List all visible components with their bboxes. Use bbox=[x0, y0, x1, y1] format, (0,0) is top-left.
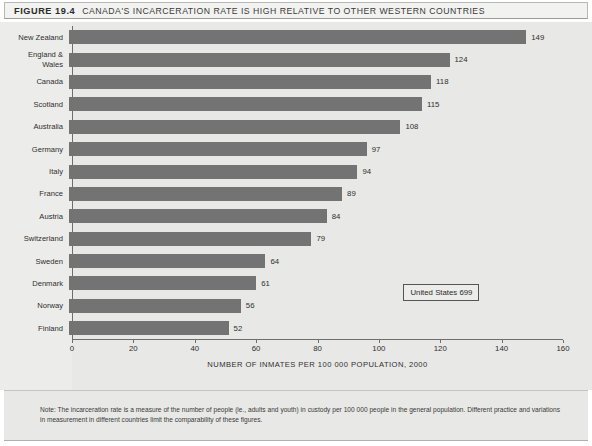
category-label: Australia bbox=[0, 122, 68, 131]
bar-wrapper: 56 bbox=[68, 295, 592, 317]
bar-row: Italy94 bbox=[0, 160, 592, 182]
x-axis-tick-label: 80 bbox=[313, 344, 322, 353]
bar-wrapper: 149 bbox=[68, 26, 592, 48]
x-axis-tick-label: 140 bbox=[495, 344, 508, 353]
bar-value-label: 64 bbox=[270, 257, 279, 266]
category-label: Austria bbox=[0, 212, 68, 221]
category-label: Canada bbox=[0, 77, 68, 86]
x-axis-tick bbox=[256, 340, 257, 343]
bar-wrapper: 79 bbox=[68, 228, 592, 250]
category-label: Italy bbox=[0, 167, 68, 176]
category-label: England & Wales bbox=[0, 50, 68, 68]
bar-value-label: 89 bbox=[347, 189, 356, 198]
united-states-callout: United States 699 bbox=[403, 284, 479, 301]
bar-value-label: 115 bbox=[427, 100, 439, 109]
bar-row: Germany97 bbox=[0, 138, 592, 160]
bottom-rule bbox=[4, 440, 588, 441]
x-axis-tick bbox=[379, 340, 380, 343]
figure-container: FIGURE 19.4 CANADA'S INCARCERATION RATE … bbox=[0, 0, 592, 446]
bar-wrapper: 97 bbox=[68, 138, 592, 160]
bar-value-label: 79 bbox=[316, 234, 325, 243]
figure-note: Note: The incarceration rate is a measur… bbox=[40, 405, 560, 424]
bar-value-label: 52 bbox=[234, 324, 243, 333]
chart-panel: New Zealand149England & Wales124Canada11… bbox=[0, 22, 592, 390]
figure-number: FIGURE 19.4 bbox=[14, 6, 75, 16]
bar-row: England & Wales124 bbox=[0, 48, 592, 70]
note-area: Note: The incarceration rate is a measur… bbox=[4, 391, 588, 440]
bar bbox=[69, 53, 450, 67]
x-axis-tick bbox=[72, 340, 73, 343]
bar-row: Norway56 bbox=[0, 295, 592, 317]
bar-value-label: 94 bbox=[362, 167, 371, 176]
bar-row: Switzerland79 bbox=[0, 228, 592, 250]
bar bbox=[69, 187, 342, 201]
bar-wrapper: 115 bbox=[68, 93, 592, 115]
bar bbox=[69, 75, 431, 89]
bar-row: Australia108 bbox=[0, 116, 592, 138]
category-label: Finland bbox=[0, 324, 68, 333]
bar-row: Scotland115 bbox=[0, 93, 592, 115]
bar-wrapper: 52 bbox=[68, 317, 592, 339]
bar-rows: New Zealand149England & Wales124Canada11… bbox=[0, 22, 592, 336]
x-axis-tick-label: 100 bbox=[372, 344, 385, 353]
bar-value-label: 84 bbox=[332, 212, 341, 221]
category-label: Germany bbox=[0, 145, 68, 154]
category-label: Norway bbox=[0, 301, 68, 310]
bar-value-label: 61 bbox=[261, 279, 270, 288]
x-axis-label: NUMBER OF INMATES PER 100 000 POPULATION… bbox=[72, 360, 563, 369]
bar bbox=[69, 232, 311, 246]
category-label: Switzerland bbox=[0, 234, 68, 243]
bar-value-label: 124 bbox=[455, 55, 468, 64]
category-label: Denmark bbox=[0, 279, 68, 288]
x-axis-tick bbox=[440, 340, 441, 343]
bar-row: France89 bbox=[0, 183, 592, 205]
bar-row: Denmark61 bbox=[0, 272, 592, 294]
bar bbox=[69, 97, 422, 111]
bar-wrapper: 118 bbox=[68, 71, 592, 93]
x-axis-tick-label: 60 bbox=[252, 344, 261, 353]
x-axis-tick-label: 120 bbox=[434, 344, 447, 353]
bar-value-label: 97 bbox=[372, 145, 381, 154]
bar-wrapper: 64 bbox=[68, 250, 592, 272]
bar bbox=[69, 30, 526, 44]
x-axis-tick bbox=[133, 340, 134, 343]
x-axis-tick-label: 40 bbox=[190, 344, 199, 353]
x-axis-tick bbox=[502, 340, 503, 343]
bar-row: Sweden64 bbox=[0, 250, 592, 272]
bar-wrapper: 94 bbox=[68, 160, 592, 182]
bar-value-label: 118 bbox=[436, 77, 448, 86]
category-label: France bbox=[0, 189, 68, 198]
bar-value-label: 108 bbox=[405, 122, 418, 131]
figure-title: CANADA'S INCARCERATION RATE IS HIGH RELA… bbox=[82, 6, 485, 16]
bar-row: New Zealand149 bbox=[0, 26, 592, 48]
x-axis: 020406080100120140160 bbox=[72, 340, 563, 354]
bar bbox=[69, 120, 400, 134]
bar-value-label: 149 bbox=[531, 33, 544, 42]
bar-row: Finland52 bbox=[0, 317, 592, 339]
category-label: New Zealand bbox=[0, 33, 68, 42]
bar bbox=[69, 165, 357, 179]
category-label: Sweden bbox=[0, 257, 68, 266]
bar bbox=[69, 276, 256, 290]
x-axis-tick-label: 20 bbox=[129, 344, 138, 353]
bar-wrapper: 61 bbox=[68, 272, 592, 294]
x-axis-tick bbox=[318, 340, 319, 343]
bar bbox=[69, 299, 241, 313]
x-axis-tick bbox=[563, 340, 564, 343]
x-axis-tick-label: 0 bbox=[70, 344, 74, 353]
x-axis-tick-label: 160 bbox=[556, 344, 569, 353]
bar bbox=[69, 254, 265, 268]
bar bbox=[69, 209, 327, 223]
bar-wrapper: 108 bbox=[68, 116, 592, 138]
bar bbox=[69, 142, 367, 156]
x-axis-tick bbox=[195, 340, 196, 343]
bar-value-label: 56 bbox=[246, 301, 255, 310]
bar-wrapper: 84 bbox=[68, 205, 592, 227]
bar-wrapper: 89 bbox=[68, 183, 592, 205]
bar-row: Canada118 bbox=[0, 71, 592, 93]
category-label: Scotland bbox=[0, 100, 68, 109]
bar-wrapper: 124 bbox=[68, 48, 592, 70]
figure-title-bar: FIGURE 19.4 CANADA'S INCARCERATION RATE … bbox=[4, 2, 588, 19]
bar bbox=[69, 321, 229, 335]
bar-row: Austria84 bbox=[0, 205, 592, 227]
